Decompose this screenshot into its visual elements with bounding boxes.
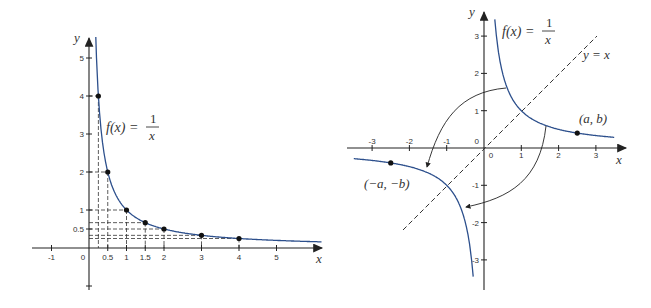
svg-text:-1: -1 [443, 137, 451, 146]
svg-text:f(x) =: f(x) = [502, 24, 534, 40]
svg-text:2: 2 [556, 151, 561, 160]
right-graph-symmetry: -3-2-101233210-1-2-3 x y f(x) = 1 x y = … [0, 0, 651, 308]
svg-text:-2: -2 [472, 219, 480, 228]
svg-text:1: 1 [475, 107, 480, 116]
x-axis-label: x [615, 152, 622, 167]
svg-text:0: 0 [475, 137, 480, 146]
y-axis-label: y [467, 4, 475, 19]
svg-text:-3: -3 [472, 256, 480, 265]
point-label-a-b: (a, b) [579, 111, 607, 126]
formula-label: f(x) = 1 x [502, 15, 555, 47]
line-y-equals-x [403, 36, 597, 230]
svg-text:3: 3 [475, 32, 480, 41]
svg-text:1: 1 [519, 151, 524, 160]
reflection-arrow-upper [427, 88, 506, 167]
svg-text:3: 3 [594, 151, 599, 160]
svg-text:1: 1 [546, 15, 553, 30]
svg-text:-3: -3 [369, 137, 377, 146]
svg-text:2: 2 [475, 69, 480, 78]
point-label-neg-a-neg-b: (−a, −b) [364, 176, 410, 191]
svg-text:-1: -1 [472, 181, 480, 190]
svg-text:-2: -2 [406, 137, 414, 146]
svg-text:x: x [544, 32, 551, 47]
line-label: y = x [581, 47, 610, 62]
svg-text:0: 0 [489, 151, 494, 160]
